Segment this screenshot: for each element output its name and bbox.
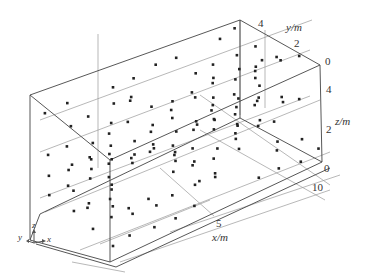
data-point: [317, 147, 320, 150]
y-tick-4: 4: [258, 18, 264, 29]
data-point: [130, 96, 133, 99]
data-point: [109, 198, 112, 201]
data-point: [171, 194, 174, 197]
data-point: [71, 163, 74, 166]
data-point: [212, 104, 215, 107]
data-point: [282, 101, 285, 104]
data-point: [131, 213, 134, 216]
data-point: [127, 207, 130, 210]
y-tick-2: 2: [294, 38, 300, 49]
data-point: [300, 160, 303, 163]
data-point: [261, 59, 264, 62]
data-point: [127, 121, 130, 124]
data-point: [195, 120, 198, 123]
data-point: [150, 131, 153, 134]
data-point: [133, 153, 136, 156]
data-point: [275, 56, 278, 59]
data-point: [235, 106, 238, 109]
scatter-3d-plot: [0, 0, 367, 275]
data-point: [153, 147, 156, 150]
data-point: [234, 78, 237, 81]
data-point: [238, 68, 241, 71]
data-point: [66, 145, 69, 148]
data-point: [108, 176, 111, 179]
data-point: [213, 118, 216, 121]
data-point: [173, 154, 176, 157]
data-point: [235, 138, 238, 141]
data-point: [110, 122, 113, 125]
data-point: [112, 86, 115, 89]
data-point: [44, 112, 47, 115]
data-point: [113, 102, 116, 105]
data-point: [151, 124, 154, 127]
grid-lines: [40, 20, 340, 272]
z-tick-2: 2: [326, 124, 332, 135]
data-point: [254, 45, 257, 48]
data-point: [276, 149, 279, 152]
data-point: [192, 129, 195, 132]
data-point: [210, 109, 213, 112]
data-point: [234, 113, 237, 116]
data-point: [280, 96, 283, 99]
data-point: [214, 172, 217, 175]
data-point: [66, 102, 69, 105]
data-point: [258, 84, 261, 87]
triad-y-label: y: [18, 233, 22, 242]
data-point: [92, 228, 95, 231]
z-axis-label: z/m: [335, 116, 350, 127]
data-point: [108, 162, 111, 165]
data-point: [131, 162, 134, 165]
data-point: [110, 216, 113, 219]
y-axis-label: y/m: [286, 22, 302, 33]
data-point: [298, 55, 301, 58]
data-point: [70, 125, 73, 128]
data-point: [194, 72, 197, 75]
triad-x-label: x: [47, 235, 51, 244]
data-point: [89, 177, 92, 180]
data-point: [213, 128, 216, 131]
data-point: [234, 132, 237, 135]
data-point: [150, 105, 153, 108]
box-edges: [30, 20, 330, 267]
data-point: [87, 115, 90, 118]
data-point: [155, 204, 158, 207]
data-point: [132, 77, 135, 80]
data-point: [175, 130, 178, 133]
x-tick-10: 10: [312, 182, 323, 193]
data-points: [44, 27, 320, 247]
data-point: [191, 164, 194, 167]
z-tick-0: 0: [324, 163, 330, 174]
data-point: [171, 117, 174, 120]
data-point: [193, 205, 196, 208]
orientation-triad: z y x: [14, 225, 54, 249]
data-point: [175, 57, 178, 60]
data-point: [298, 98, 301, 101]
data-point: [233, 93, 236, 96]
data-point: [110, 188, 113, 191]
data-point: [233, 27, 236, 30]
data-point: [110, 158, 113, 161]
data-point: [258, 176, 261, 179]
data-point: [128, 234, 131, 237]
data-point: [254, 77, 257, 80]
data-point: [86, 207, 89, 210]
data-point: [133, 140, 136, 143]
data-point: [108, 132, 111, 135]
y-tick-0: 0: [325, 56, 331, 67]
data-point: [110, 183, 113, 186]
data-point: [212, 96, 215, 99]
data-point: [92, 142, 95, 145]
data-point: [67, 169, 70, 172]
data-point: [88, 156, 91, 159]
data-point: [238, 148, 241, 151]
data-point: [193, 160, 196, 163]
data-point: [198, 180, 201, 183]
data-point: [237, 97, 240, 100]
data-point: [196, 123, 199, 126]
data-point: [147, 198, 150, 201]
data-point: [170, 109, 173, 112]
data-point: [48, 175, 51, 178]
data-point: [279, 59, 282, 62]
data-point: [171, 100, 174, 103]
data-point: [212, 77, 215, 80]
